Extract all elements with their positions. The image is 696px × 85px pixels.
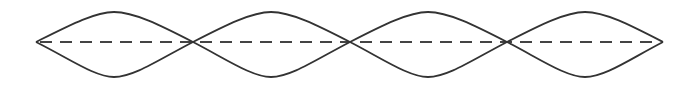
standing-wave-diagram [0,0,696,85]
wave-envelope-upper [36,12,663,42]
wave-envelope-lower [36,42,663,77]
